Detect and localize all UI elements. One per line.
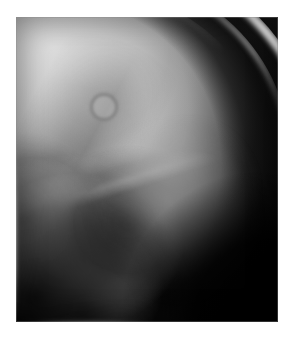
film-grain-layer bbox=[16, 17, 278, 322]
temporal-mottling-layer bbox=[16, 17, 278, 322]
skull-base-lines bbox=[16, 17, 278, 322]
temporal-ridge-band bbox=[16, 17, 278, 322]
radiograph-image bbox=[16, 17, 278, 322]
diploe-dark-crescent bbox=[16, 17, 278, 322]
page-root bbox=[0, 0, 294, 337]
plate-edge-seam bbox=[16, 17, 278, 322]
mastoid-air-cells bbox=[16, 17, 278, 322]
upper-left-haze-layer bbox=[16, 17, 278, 322]
occipital-lamina-arc bbox=[16, 17, 268, 322]
film-vignette-layer bbox=[16, 17, 278, 322]
foramen-dark-notches bbox=[16, 17, 278, 322]
ring-lesion-marker bbox=[90, 93, 118, 121]
film-background-layer bbox=[16, 17, 278, 322]
petrous-mastoid-mass bbox=[16, 17, 278, 322]
inner-table-arc bbox=[16, 17, 278, 322]
outer-table-arc bbox=[16, 17, 278, 322]
cranial-vault-layer bbox=[16, 17, 278, 322]
background-air-wedge bbox=[16, 17, 278, 322]
